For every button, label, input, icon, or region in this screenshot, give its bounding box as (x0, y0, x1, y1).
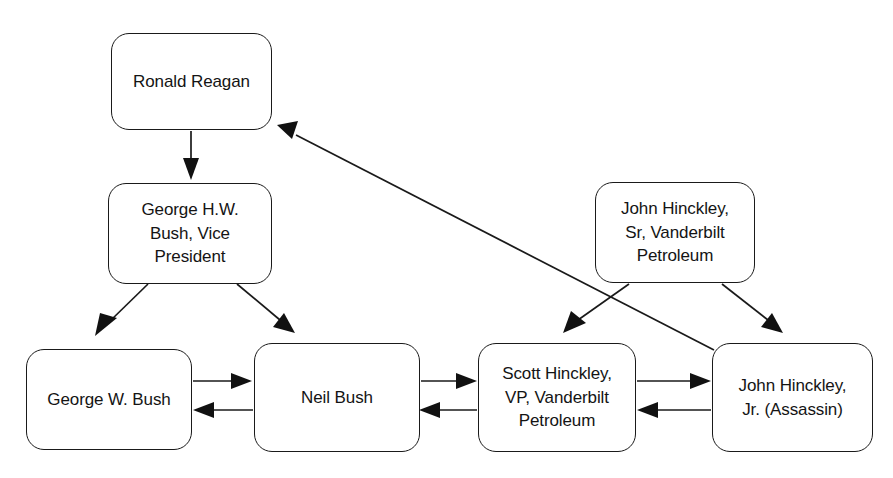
diagram-canvas: Ronald Reagan George H.W. Bush, Vice Pre… (0, 0, 893, 478)
node-label-scott-hinckley: Scott Hinckley, VP, Vanderbilt Petroleum (494, 362, 620, 432)
node-george-hw-bush[interactable]: George H.W. Bush, Vice President (108, 183, 272, 284)
node-ronald-reagan[interactable]: Ronald Reagan (111, 33, 272, 130)
node-label-ronald-reagan: Ronald Reagan (125, 70, 258, 93)
edge-neil-bush-to-scott (421, 373, 477, 389)
edge-hinckley-jr-to-scott (637, 402, 711, 418)
node-label-neil-bush: Neil Bush (293, 386, 381, 409)
node-john-hinckley-jr[interactable]: John Hinckley, Jr. (Assassin) (712, 343, 873, 452)
edge-ghw-bush-to-neil-bush (237, 284, 295, 333)
edge-hinckley-sr-to-hinckley-jr (722, 284, 783, 333)
edge-george-w-bush-to-neil-bush (193, 373, 252, 389)
node-label-john-hinckley-jr: John Hinckley, Jr. (Assassin) (731, 374, 855, 421)
node-george-w-bush[interactable]: George W. Bush (26, 349, 192, 450)
edge-reagan-to-ghw-bush (183, 131, 199, 180)
edge-neil-bush-to-george-w-bush (193, 402, 253, 418)
node-john-hinckley-sr[interactable]: John Hinckley, Sr, Vanderbilt Petroleum (595, 182, 755, 283)
edge-scott-to-hinckley-jr (637, 373, 711, 389)
node-neil-bush[interactable]: Neil Bush (254, 343, 420, 452)
node-label-george-w-bush: George W. Bush (39, 388, 178, 411)
edge-ghw-bush-to-george-w-bush (95, 284, 148, 336)
edge-scott-to-neil-bush (419, 402, 477, 418)
edge-hinckley-sr-to-scott (563, 284, 629, 333)
node-scott-hinckley[interactable]: Scott Hinckley, VP, Vanderbilt Petroleum (478, 343, 636, 452)
node-label-george-hw-bush: George H.W. Bush, Vice President (133, 198, 246, 268)
node-label-john-hinckley-sr: John Hinckley, Sr, Vanderbilt Petroleum (613, 197, 737, 267)
